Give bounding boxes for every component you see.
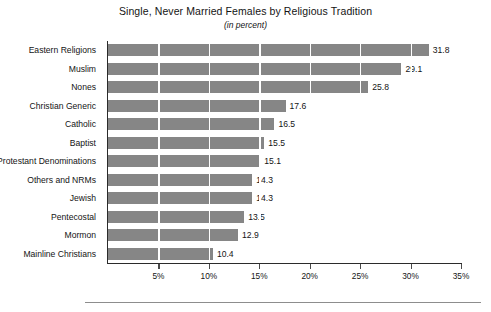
plot-area: 31.829.125.817.616.515.515.114.314.313.5… [108,41,461,263]
bar [108,81,368,93]
bar-value-label: 14.3 [252,193,273,203]
bar-row: 31.8 [108,44,461,56]
bar [108,118,274,130]
category-label: Protestant Denominations [0,156,96,166]
category-label: Mormon [0,230,96,240]
category-label: Mainline Christians [0,249,96,259]
bar-value-label: 17.6 [286,101,307,111]
category-label: Others and NRMs [0,175,96,185]
x-axis-tick-label: 15% [239,271,279,281]
x-axis-tick-mark [461,264,462,269]
bar-row: 29.1 [108,63,461,75]
bar [108,44,429,56]
chart-subtitle: (in percent) [0,20,491,30]
bar-row: 14.3 [108,174,461,186]
bar [108,211,244,223]
bar-row: 12.9 [108,229,461,241]
x-axis-tick-label: 10% [189,271,229,281]
bar-value-label: 31.8 [429,45,450,55]
x-axis-tick-label: 5% [138,271,178,281]
bar [108,229,238,241]
bar [108,63,401,75]
bar-value-label: 13.5 [244,212,265,222]
category-label: Nones [0,82,96,92]
chart-title: Single, Never Married Females by Religio… [0,5,491,17]
category-label: Christian Generic [0,101,96,111]
category-label: Catholic [0,119,96,129]
bar [108,192,252,204]
bar-row: 15.1 [108,155,461,167]
bar [108,248,213,260]
x-axis-tick-label: 20% [290,271,330,281]
category-label: Eastern Religions [0,45,96,55]
bar-value-label: 12.9 [238,230,259,240]
bar-row: 15.5 [108,137,461,149]
bar [108,137,264,149]
x-axis-tick-mark [209,264,210,269]
bar-row: 25.8 [108,81,461,93]
x-axis-line [107,263,462,264]
x-axis-tick-mark [360,264,361,269]
x-axis-tick-label: 25% [340,271,380,281]
bar-value-label: 25.8 [368,82,389,92]
bar-value-label: 15.5 [264,138,285,148]
bar-row: 16.5 [108,118,461,130]
x-axis-tick-mark [310,264,311,269]
x-axis-tick-label: 30% [391,271,431,281]
bar-row: 14.3 [108,192,461,204]
bar-row: 10.4 [108,248,461,260]
bar-value-label: 10.4 [213,249,234,259]
category-label: Muslim [0,64,96,74]
bar-row: 17.6 [108,100,461,112]
bar-value-label: 14.3 [252,175,273,185]
bar-row: 13.5 [108,211,461,223]
bar-value-label: 16.5 [274,119,295,129]
bar-value-label: 15.1 [260,156,281,166]
bar [108,100,286,112]
bar-value-label: 29.1 [401,64,422,74]
category-label: Pentecostal [0,212,96,222]
bar [108,174,252,186]
x-axis-tick-mark [259,264,260,269]
footer-divider [85,302,481,303]
bar [108,155,260,167]
category-label: Jewish [0,193,96,203]
x-axis-tick-label: 35% [441,271,481,281]
category-label: Baptist [0,138,96,148]
x-axis-tick-mark [411,264,412,269]
x-axis-tick-mark [158,264,159,269]
